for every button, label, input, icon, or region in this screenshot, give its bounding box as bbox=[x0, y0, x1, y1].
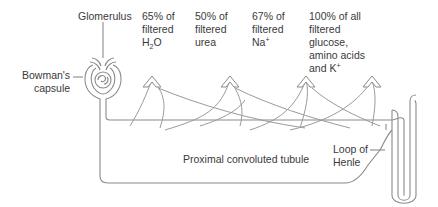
arrowhead-glucose bbox=[363, 76, 381, 87]
proximal-tubule-label: Proximal convoluted tubule bbox=[183, 153, 309, 166]
glomerulus-label: Glomerulus bbox=[78, 10, 132, 23]
bowmans-capsule-shape bbox=[85, 65, 121, 108]
loop-of-henle-label: Loop of Henle bbox=[333, 143, 368, 169]
arrowhead-h2o bbox=[143, 76, 161, 87]
arrowhead-na bbox=[297, 76, 315, 87]
reabsorption-h2o-label: 65% of filtered H2O bbox=[142, 10, 175, 49]
bowmans-capsule-label: Bowman's capsule bbox=[22, 69, 70, 95]
tubule-inner bbox=[106, 108, 392, 120]
arrowhead-urea bbox=[221, 76, 239, 87]
reabsorption-glucose-label: 100% of all filtered glucose, amino acid… bbox=[309, 10, 365, 75]
reabsorption-urea-label: 50% of filtered urea bbox=[195, 10, 228, 49]
reabsorption-na-label: 67% of filtered Na+ bbox=[252, 10, 285, 49]
glomerulus-shape bbox=[95, 72, 111, 88]
